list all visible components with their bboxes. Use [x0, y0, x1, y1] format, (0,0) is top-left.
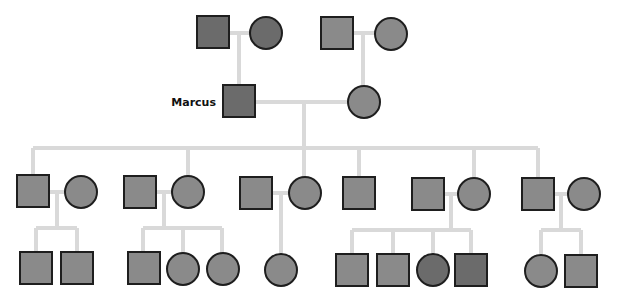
female-IV-11[interactable] [525, 255, 557, 287]
male-IV-7[interactable] [336, 254, 368, 286]
male-IV-12[interactable] [565, 255, 597, 287]
female-IV-9[interactable] [417, 254, 449, 286]
male-III-8[interactable] [412, 178, 444, 210]
male-I-3[interactable] [321, 17, 353, 49]
male-III-1[interactable] [17, 175, 49, 207]
male-IV-2[interactable] [61, 252, 93, 284]
male-III-10[interactable] [522, 178, 554, 210]
proband-label: Marcus [171, 96, 216, 109]
generation-1 [197, 16, 407, 50]
female-IV-5[interactable] [207, 253, 239, 285]
male-III-5[interactable] [240, 177, 272, 209]
male-IV-1[interactable] [20, 252, 52, 284]
female-IV-4[interactable] [167, 253, 199, 285]
male-IV-8[interactable] [377, 254, 409, 286]
generation-3 [17, 175, 600, 210]
male-IV-3[interactable] [128, 252, 160, 284]
female-I-4[interactable] [375, 18, 407, 50]
male-III-3[interactable] [124, 176, 156, 208]
female-III-11[interactable] [568, 178, 600, 210]
female-II-2[interactable] [348, 86, 380, 118]
generation-4 [20, 252, 597, 287]
connector-lines [33, 33, 581, 255]
male-II-1-marcus[interactable] [223, 85, 255, 117]
female-IV-6[interactable] [265, 254, 297, 286]
male-I-1[interactable] [197, 16, 229, 48]
female-III-2[interactable] [65, 176, 97, 208]
female-I-2[interactable] [250, 17, 282, 49]
male-IV-10[interactable] [455, 254, 487, 286]
pedigree-chart: Marcus [0, 0, 617, 307]
male-III-7[interactable] [343, 177, 375, 209]
female-III-6[interactable] [289, 177, 321, 209]
female-III-4[interactable] [172, 176, 204, 208]
female-III-9[interactable] [458, 178, 490, 210]
